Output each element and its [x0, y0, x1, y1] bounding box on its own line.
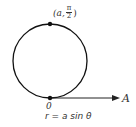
theta-fraction: π 2 [66, 5, 73, 20]
origin-point [48, 96, 52, 100]
origin-label: 0 [46, 101, 52, 111]
polar-axis-label: A [122, 92, 130, 105]
equation-label: r = a sin θ [45, 111, 92, 121]
arrowhead-icon [112, 95, 120, 101]
top-point-close: ) [73, 8, 77, 18]
top-point-open: (a, [53, 8, 65, 18]
fraction-denominator: 2 [67, 13, 71, 20]
circle-curve [13, 24, 87, 98]
top-point [48, 22, 52, 26]
top-point-label: (a, π 2 ) [53, 5, 77, 20]
